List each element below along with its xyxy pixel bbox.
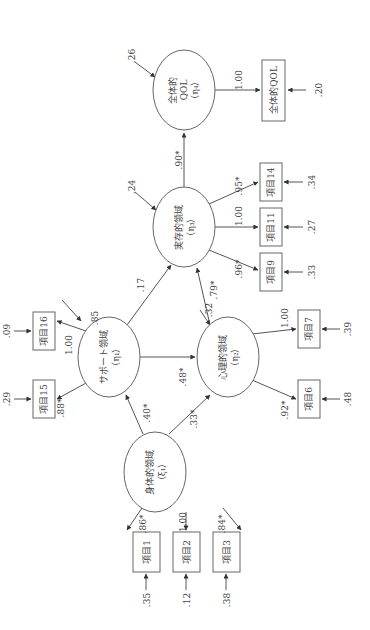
box-item6-label: 項目6: [304, 387, 314, 411]
error-item2-value: .12: [182, 593, 192, 607]
box-overall-qol-item-label: 全体的QOL: [268, 66, 279, 114]
error-item15-value: .29: [2, 392, 12, 407]
latent-support-line1: サポート領域: [98, 330, 109, 384]
coef-item9: .96*: [234, 259, 244, 278]
disturbance-support: [62, 300, 81, 321]
coef-item1: .86*: [138, 514, 148, 533]
coef-item7: 1.00: [280, 308, 290, 328]
loading-item15: [57, 383, 86, 399]
latent-physical: [124, 432, 186, 512]
latent-physical-line2: （ξ₁）: [157, 459, 167, 486]
error-item11-value: .27: [307, 220, 317, 235]
box-item3-label: 項目3: [222, 540, 232, 564]
loading-item7: [252, 329, 296, 334]
error-item7-value: .39: [343, 322, 353, 337]
error-item9-value: .33: [307, 265, 317, 280]
sem-path-diagram: 全体的 QOL （η₄） 実存的領域 （η₃） サポート領域 （η₁） 心理的領…: [0, 0, 370, 630]
latent-existential-line2: （η₃）: [186, 214, 196, 241]
loading-item16: [57, 321, 86, 331]
latent-overall-qol-line3: （η₄）: [190, 77, 200, 104]
box-item2-label: 項目2: [182, 540, 192, 564]
coef-item15: .88*: [56, 398, 66, 417]
latent-physical-line1: 身体的領域: [144, 450, 155, 495]
coef-support-to-psychological: .48*: [178, 367, 188, 386]
box-item11-label: 項目11: [266, 212, 276, 241]
disturbance-psychological-value: .32: [204, 303, 214, 317]
error-item1-value: .35: [142, 593, 152, 608]
coef-support-to-existential: .17: [136, 278, 146, 293]
disturbance-overall: [135, 62, 155, 77]
error-overall-qol-item-value: .20: [314, 83, 324, 98]
latent-existential: [153, 187, 215, 267]
coef-physical-to-support: .40*: [142, 403, 152, 422]
disturbance-overall-value: .26: [127, 49, 137, 64]
path-support-to-existential: [127, 265, 171, 325]
box-item9-label: 項目9: [266, 260, 276, 284]
coef-item2: 1.00: [178, 512, 188, 532]
coef-item14: .95*: [234, 176, 244, 195]
latent-existential-line1: 実存的領域: [173, 205, 184, 250]
disturbance-existential-value: .24: [127, 180, 137, 195]
box-item16-label: 項目16: [39, 316, 49, 346]
coef-psychological-to-existential: .79*: [209, 280, 219, 299]
box-item7-label: 項目7: [304, 317, 314, 341]
path-physical-to-support: [126, 395, 143, 434]
error-item3-value: .38: [222, 593, 232, 608]
disturbance-existential: [135, 192, 156, 210]
coef-existential-to-overall: .90*: [174, 150, 184, 169]
error-item16-value: .09: [2, 324, 12, 339]
coef-item16: 1.00: [64, 335, 74, 355]
latent-overall-qol-line2: QOL: [179, 80, 189, 101]
latent-psychological: [197, 317, 259, 397]
error-item14-value: .34: [307, 175, 317, 190]
box-item14-label: 項目14: [266, 167, 276, 197]
latent-psychological-line1: 心理的領域: [217, 335, 228, 380]
coef-item3: .84*: [217, 514, 227, 533]
latent-support: [78, 317, 140, 397]
coef-item6: .92*: [280, 400, 290, 419]
error-item6-value: .48: [343, 392, 353, 407]
coef-support-disturbance: .85: [90, 311, 100, 326]
coef-physical-to-psychological: .33*: [189, 409, 199, 428]
latent-psychological-line2: （η₂）: [230, 344, 240, 371]
latent-support-line2: （η₁）: [111, 344, 121, 371]
box-item1-label: 項目1: [142, 540, 152, 564]
loading-item6: [252, 380, 296, 399]
latent-overall-qol-line1: 全体的: [167, 77, 178, 104]
box-item15-label: 項目15: [39, 384, 49, 414]
coef-item11: 1.00: [234, 206, 244, 226]
coef-overall-qol-item: 1.00: [234, 70, 244, 90]
